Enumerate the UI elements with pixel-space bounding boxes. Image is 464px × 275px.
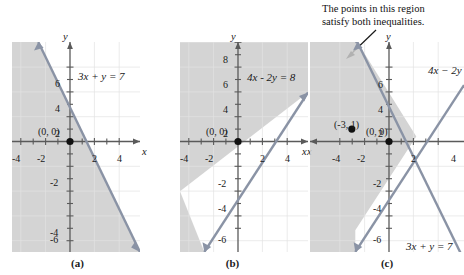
y-tick-neg6-a: -6 <box>50 234 58 245</box>
shaded-region-b-lower <box>180 191 204 252</box>
test-point-origin-c <box>385 138 392 145</box>
y-tick-6-b: 6 <box>223 79 228 90</box>
x-axis-name-a: x <box>142 146 147 157</box>
y-tick-4-c: 4 <box>378 104 383 115</box>
y-tick-neg2-b: -2 <box>218 178 226 189</box>
equation-label-4x-2y-c: 4x − 2y <box>428 64 462 76</box>
x-tick-neg4-a: -4 <box>12 153 20 164</box>
x-tick-4-a: 4 <box>117 153 122 164</box>
x-tick-neg4-b: -4 <box>180 153 188 164</box>
y-tick-neg2-c: -2 <box>373 178 381 189</box>
y-tick-8-b: 8 <box>223 54 228 65</box>
x-tick-2-c: 2 <box>411 153 416 164</box>
test-point-origin-a <box>66 138 73 145</box>
y-tick-neg6-c: -6 <box>373 234 381 245</box>
y-axis-name-b: y <box>231 31 236 42</box>
y-tick-4-a: 4 <box>55 103 60 114</box>
y-tick-neg6-b: -6 <box>218 234 226 245</box>
point-label-neg3-1: (-3, 1) <box>334 119 359 130</box>
x-tick-neg2-b: -2 <box>205 153 213 164</box>
x-tick-2-a: 2 <box>92 153 97 164</box>
y-axis-name-a: y <box>63 31 68 42</box>
origin-label-b: (0, 0) <box>206 126 228 137</box>
x-tick-neg4-c: -4 <box>332 153 340 164</box>
test-point-origin-b <box>234 138 241 145</box>
x-tick-2-b: 2 <box>260 153 265 164</box>
panel-a: 6 4 2 -2 -4 -6 -4 -2 2 4 y x (0, 0) 3x +… <box>0 0 155 275</box>
panel-letter-b: (b) <box>155 257 310 269</box>
panel-b: 8 6 4 2 -2 -4 -6 -4 -2 2 4 y x (0, 0) 4x… <box>155 0 310 275</box>
region-annotation: The points in this region satisfy both i… <box>322 2 464 28</box>
origin-label-a: (0, 0) <box>38 126 60 137</box>
y-tick-6-a: 6 <box>55 78 60 89</box>
x-tick-neg2-c: -2 <box>357 153 365 164</box>
equation-label-3x-y-c: 3x + y = 7 <box>406 240 453 252</box>
y-tick-neg4-c: -4 <box>373 203 381 214</box>
y-tick-neg4-b: -4 <box>218 203 226 214</box>
y-axis-name-c: y <box>386 31 391 42</box>
equation-label-a: 3x + y = 7 <box>78 70 125 82</box>
x-tick-4-c: 4 <box>451 153 456 164</box>
y-tick-6-c: 6 <box>378 79 383 90</box>
inequality-graphs-figure: 6 4 2 -2 -4 -6 -4 -2 2 4 y x (0, 0) 3x +… <box>0 0 464 275</box>
origin-label-c: (0, 0) <box>366 126 388 137</box>
y-tick-4-b: 4 <box>223 104 228 115</box>
x-tick-4-b: 4 <box>285 153 290 164</box>
panel-letter-a: (a) <box>0 257 155 269</box>
panel-c: The points in this region satisfy both i… <box>310 0 464 275</box>
y-tick-neg2-a: -2 <box>50 177 58 188</box>
x-tick-neg2-a: -2 <box>37 153 45 164</box>
shaded-region-c <box>310 42 416 252</box>
x-axis-name-c: x <box>302 146 307 157</box>
equation-label-b: 4x - 2y = 8 <box>247 71 295 83</box>
panel-letter-c: (c) <box>310 257 464 269</box>
